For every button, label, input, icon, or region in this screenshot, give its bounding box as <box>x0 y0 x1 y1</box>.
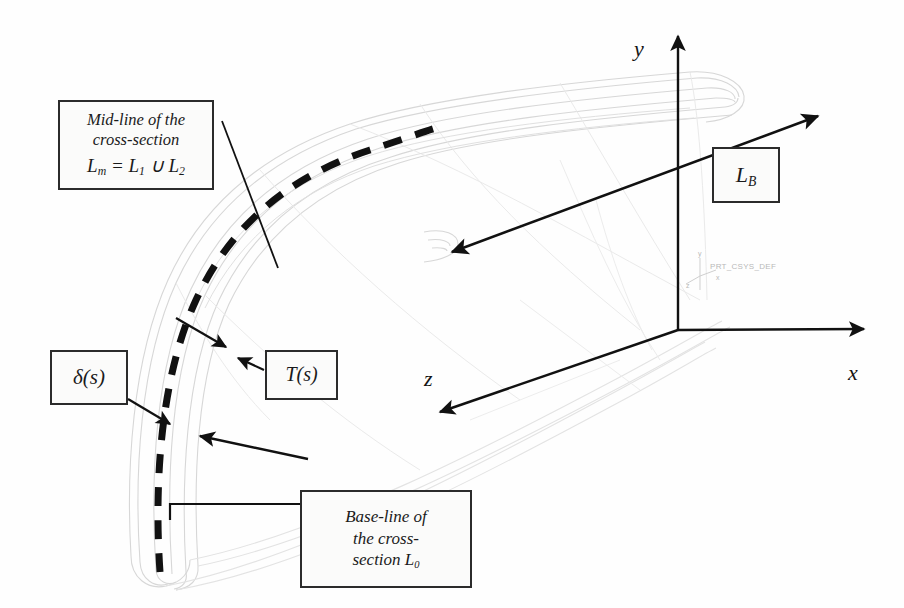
cad-tick-z-label: z <box>686 282 690 289</box>
z-axis-label: z <box>424 366 433 392</box>
thickness-callout-label: δ(s) <box>73 364 105 390</box>
delta-leader <box>128 399 170 424</box>
x-axis-label: x <box>848 360 858 386</box>
cad-tick-x-label: x <box>716 274 720 281</box>
base-line-callout-line2: the cross- <box>353 528 419 549</box>
mid-line-callout-line1: Mid-line of the <box>87 110 185 131</box>
mid-line-callout-line2: cross-section <box>93 130 179 151</box>
diagram-canvas: Mid-line of the cross-section Lm = L1 ∪ … <box>0 0 904 608</box>
z-axis-line <box>440 330 678 412</box>
lb-callout[interactable]: LB <box>712 147 780 203</box>
baseline-leader <box>170 504 300 520</box>
mid-line-callout-formula: Lm = L1 ∪ L2 <box>87 154 185 180</box>
y-axis-label: y <box>634 36 644 62</box>
tangent-leader <box>238 358 264 370</box>
tangent-callout[interactable]: T(s) <box>265 350 338 400</box>
cad-tick-y-label: y <box>698 250 702 257</box>
lb-callout-label: LB <box>736 161 757 190</box>
thickness-callout[interactable]: δ(s) <box>50 350 128 405</box>
thickness-arrow-upper <box>176 318 226 347</box>
base-line-callout[interactable]: Base-line of the cross- section L0 <box>300 490 472 588</box>
base-line-callout-line3: section L0 <box>352 549 419 571</box>
base-line-callout-line1: Base-line of <box>345 506 427 527</box>
mid-line-callout[interactable]: Mid-line of the cross-section Lm = L1 ∪ … <box>58 100 214 190</box>
wall-arrow-lower <box>200 436 308 459</box>
tangent-callout-label: T(s) <box>285 362 317 387</box>
midline-leader <box>222 121 278 268</box>
x-axis-line <box>678 329 864 330</box>
cad-csys-label: PRT_CSYS_DEF <box>710 262 776 271</box>
